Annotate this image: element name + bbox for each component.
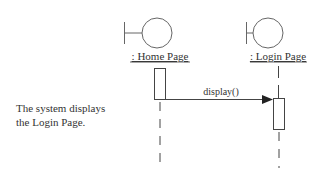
boundary-icon	[247, 18, 284, 48]
home-activation-box	[155, 69, 166, 100]
home-page-label: : Home Page	[132, 50, 189, 62]
message-display: display()	[165, 86, 273, 104]
login-activation-box	[274, 99, 285, 130]
login-page-lifeline: : Login Page	[247, 18, 308, 168]
message-label: display()	[203, 86, 239, 98]
home-page-lifeline: : Home Page	[125, 18, 191, 168]
login-page-label: : Login Page	[250, 50, 306, 62]
arrowhead-icon	[262, 95, 273, 104]
sequence-diagram: : Home Page : Login Page display()	[0, 0, 324, 174]
boundary-icon	[125, 18, 173, 48]
